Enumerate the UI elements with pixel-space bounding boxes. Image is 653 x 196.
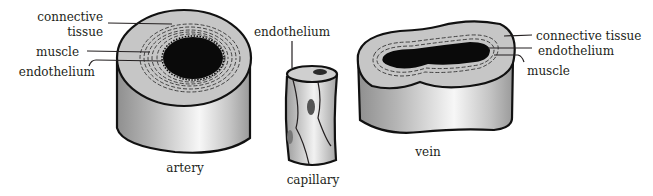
artery-label-connective: connective — [37, 10, 103, 24]
capillary-wall — [286, 74, 337, 165]
vein-label-endothelium: endothelium — [538, 44, 615, 58]
artery-label-endothelium: endothelium — [19, 65, 96, 79]
capillary-label-endothelium: endothelium — [254, 25, 331, 39]
artery-caption: artery — [166, 161, 204, 175]
capillary-nucleus — [307, 99, 315, 115]
artery: connective tissue muscle endothelium art… — [19, 10, 251, 175]
blood-vessel-diagram: connective tissue muscle endothelium art… — [0, 0, 653, 196]
capillary: endothelium capillary — [254, 25, 340, 187]
vein: connective tissue endothelium muscle vei… — [358, 21, 642, 159]
vein-label-connective-tissue: connective tissue — [536, 29, 641, 43]
artery-label-tissue: tissue — [67, 25, 103, 39]
vein-caption: vein — [414, 145, 441, 159]
capillary-lumen — [313, 69, 327, 75]
capillary-nucleus — [287, 130, 293, 144]
artery-label-muscle: muscle — [36, 45, 79, 59]
vein-label-muscle: muscle — [527, 64, 570, 78]
artery-lumen — [163, 37, 223, 79]
capillary-caption: capillary — [287, 173, 340, 187]
